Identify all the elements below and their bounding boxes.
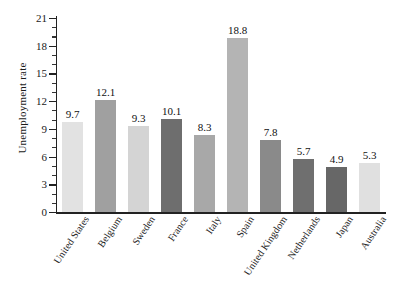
bar-slot: 5.7 bbox=[287, 18, 320, 212]
y-tick-label: 0 bbox=[42, 206, 48, 218]
bar[interactable] bbox=[359, 163, 379, 212]
y-tick-major bbox=[49, 73, 56, 74]
bar-value-label: 12.1 bbox=[96, 86, 115, 98]
bar[interactable] bbox=[260, 140, 280, 212]
x-axis-label: Italy bbox=[203, 214, 223, 236]
y-tick-major bbox=[49, 18, 56, 19]
y-tick-major bbox=[49, 157, 56, 158]
y-tick-label: 12 bbox=[36, 95, 47, 107]
bar-slot: 18.8 bbox=[221, 18, 254, 212]
y-tick-major bbox=[49, 129, 56, 130]
x-axis-label: France bbox=[165, 214, 190, 243]
y-tick-major bbox=[49, 212, 56, 213]
bar[interactable] bbox=[227, 38, 247, 212]
bar-value-label: 5.7 bbox=[297, 145, 311, 157]
bar-value-label: 7.8 bbox=[264, 126, 278, 138]
bar[interactable] bbox=[194, 135, 214, 212]
y-tick-label: 9 bbox=[42, 123, 48, 135]
bar[interactable] bbox=[326, 167, 346, 212]
x-axis-label: Sweden bbox=[130, 214, 157, 247]
bar-slot: 5.3 bbox=[353, 18, 386, 212]
bar-value-label: 9.3 bbox=[132, 112, 146, 124]
x-axis-labels: United StatesBelgiumSwedenFranceItalySpa… bbox=[56, 214, 386, 302]
bar-slot: 9.3 bbox=[122, 18, 155, 212]
bar-slot: 4.9 bbox=[320, 18, 353, 212]
bar[interactable] bbox=[62, 122, 82, 212]
bar-slot: 10.1 bbox=[155, 18, 188, 212]
y-tick-label: 3 bbox=[42, 178, 48, 190]
bar-value-label: 5.3 bbox=[363, 149, 377, 161]
bar[interactable] bbox=[161, 119, 181, 212]
y-tick-label: 15 bbox=[36, 67, 47, 79]
x-axis-label: Belgium bbox=[95, 214, 124, 249]
x-axis-label: Spain bbox=[234, 214, 256, 239]
bar-value-label: 8.3 bbox=[198, 121, 212, 133]
bar-value-label: 4.9 bbox=[330, 153, 344, 165]
bar-slot: 9.7 bbox=[56, 18, 89, 212]
y-tick-label: 6 bbox=[42, 151, 48, 163]
bar-slot: 8.3 bbox=[188, 18, 221, 212]
y-tick-major bbox=[49, 46, 56, 47]
bar[interactable] bbox=[293, 159, 313, 212]
bar-value-label: 18.8 bbox=[228, 24, 247, 36]
bar-series: 9.712.19.310.18.318.87.85.74.95.3 bbox=[56, 18, 386, 212]
y-tick-label: 21 bbox=[36, 12, 47, 24]
bar-slot: 12.1 bbox=[89, 18, 122, 212]
x-axis-label: Netherlands bbox=[285, 214, 322, 261]
x-axis-label: Australia bbox=[358, 214, 388, 251]
y-tick-major bbox=[49, 184, 56, 185]
bar-slot: 7.8 bbox=[254, 18, 287, 212]
bar[interactable] bbox=[128, 126, 148, 212]
y-tick-label: 18 bbox=[36, 40, 47, 52]
bar-chart: Unemployment rate 036912151821 9.712.19.… bbox=[0, 0, 402, 302]
bar-value-label: 10.1 bbox=[162, 105, 181, 117]
y-tick-major bbox=[49, 101, 56, 102]
x-axis-label: United States bbox=[51, 214, 91, 266]
y-axis-title: Unemployment rate bbox=[16, 8, 30, 208]
x-axis-label: Japan bbox=[333, 214, 355, 239]
bar[interactable] bbox=[95, 100, 115, 212]
bar-value-label: 9.7 bbox=[66, 108, 80, 120]
